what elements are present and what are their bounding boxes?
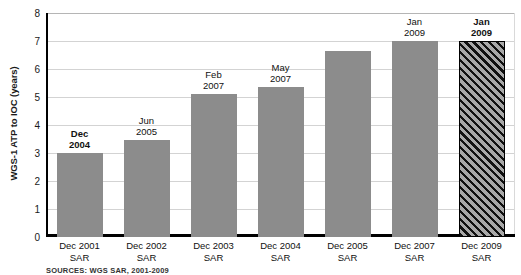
y-tick-label: 1 (22, 204, 40, 215)
bar[interactable] (392, 41, 438, 237)
x-tick-label: Dec 2005 SAR (314, 240, 381, 263)
bar[interactable] (191, 94, 237, 237)
bar-slot: May 2007 (258, 13, 304, 237)
x-tick-label: Dec 2001 SAR (46, 240, 113, 263)
bar-value-label: Jan 2009 (445, 17, 519, 38)
bar-slot: Jan 2009 (459, 13, 505, 237)
bar-value-label: Dec 2004 (43, 129, 117, 150)
bar[interactable] (258, 87, 304, 237)
bar-value-label: May 2007 (244, 63, 318, 84)
x-tick-label: Dec 2002 SAR (113, 240, 180, 263)
bar-value-label: Jan 2009 (378, 17, 452, 38)
x-tick-label: Dec 2007 SAR (381, 240, 448, 263)
bar-slot: Jun 2005 (124, 13, 170, 237)
bar-value-label: Jun 2005 (110, 116, 184, 137)
bar-value-label: Feb 2007 (177, 70, 251, 91)
x-tick-label: Dec 2003 SAR (180, 240, 247, 263)
bar-slot (325, 13, 371, 237)
bar-series: Dec 2004Jun 2005Feb 2007May 2007Jan 2009… (46, 13, 515, 237)
bar-slot: Feb 2007 (191, 13, 237, 237)
bar[interactable] (325, 51, 371, 237)
bar[interactable] (57, 153, 103, 237)
y-tick-label: 7 (22, 36, 40, 47)
source-note: SOURCES: WGS SAR, 2001-2009 (46, 266, 169, 275)
y-tick-label: 8 (22, 8, 40, 19)
y-tick-label: 6 (22, 64, 40, 75)
x-tick-label: Dec 2009 SAR (448, 240, 515, 263)
y-tick-label: 0 (22, 232, 40, 243)
bar-slot: Dec 2004 (57, 13, 103, 237)
y-tick-label: 2 (22, 176, 40, 187)
bar-slot: Jan 2009 (392, 13, 438, 237)
bar[interactable] (124, 140, 170, 237)
x-axis-tick-labels: Dec 2001 SARDec 2002 SARDec 2003 SARDec … (46, 240, 515, 268)
y-tick-label: 3 (22, 148, 40, 159)
x-tick-label: Dec 2004 SAR (247, 240, 314, 263)
y-tick-label: 5 (22, 92, 40, 103)
y-tick-label: 4 (22, 120, 40, 131)
bar[interactable] (459, 41, 505, 237)
